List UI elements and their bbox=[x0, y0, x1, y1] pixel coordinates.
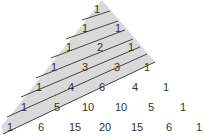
triangle-number: 5 bbox=[54, 102, 60, 113]
triangle-number: 3 bbox=[82, 62, 88, 73]
shaded-region bbox=[1, 0, 155, 134]
triangle-number: 1 bbox=[7, 122, 13, 133]
diagram-graphics bbox=[0, 0, 204, 139]
pascal-triangle-diagram: 111121133114641151010511615201561 bbox=[0, 0, 204, 139]
triangle-number: 4 bbox=[132, 82, 138, 93]
triangle-number: 1 bbox=[21, 102, 27, 113]
triangle-number: 1 bbox=[82, 23, 88, 34]
triangle-number: 20 bbox=[99, 122, 111, 133]
triangle-number: 2 bbox=[97, 42, 103, 53]
triangle-number: 10 bbox=[82, 102, 94, 113]
triangle-number: 3 bbox=[114, 62, 120, 73]
triangle-number: 6 bbox=[38, 122, 44, 133]
triangle-number: 15 bbox=[131, 122, 143, 133]
triangle-number: 6 bbox=[166, 122, 172, 133]
triangle-number: 6 bbox=[99, 82, 105, 93]
triangle-number: 5 bbox=[148, 102, 154, 113]
triangle-number: 1 bbox=[115, 23, 121, 34]
triangle-number: 1 bbox=[66, 42, 72, 53]
triangle-number: 10 bbox=[115, 102, 127, 113]
triangle-number: 1 bbox=[144, 62, 150, 73]
triangle-number: 1 bbox=[128, 42, 134, 53]
triangle-number: 1 bbox=[36, 82, 42, 93]
triangle-number: 1 bbox=[163, 82, 169, 93]
triangle-number: 1 bbox=[180, 102, 186, 113]
triangle-number: 1 bbox=[94, 4, 100, 15]
triangle-number: 1 bbox=[51, 62, 57, 73]
triangle-number: 1 bbox=[196, 122, 202, 133]
triangle-number: 15 bbox=[69, 122, 81, 133]
triangle-number: 4 bbox=[68, 82, 74, 93]
